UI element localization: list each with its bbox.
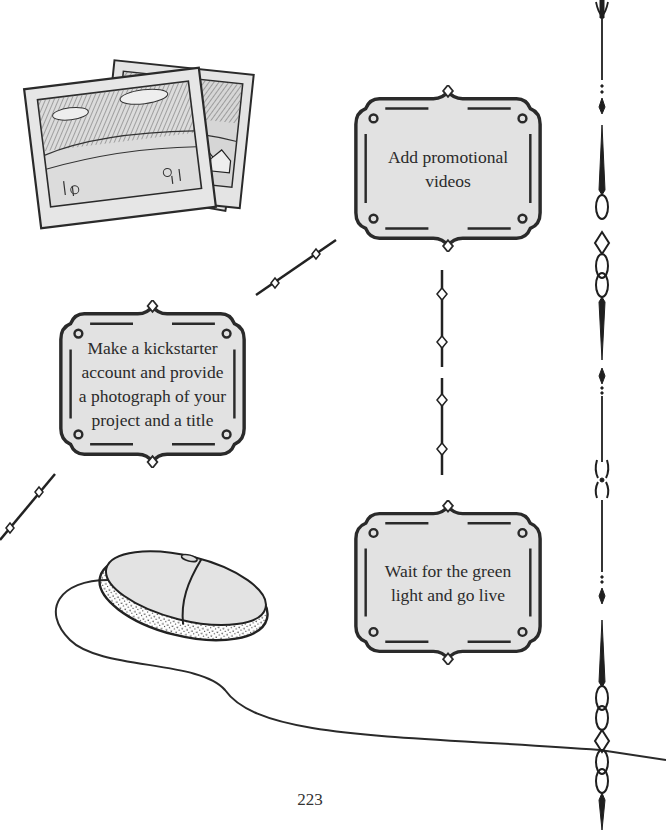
- step-text: Make a kickstarter account and provide a…: [55, 300, 250, 468]
- step-frame-promotional-videos: Add promotional videos: [350, 85, 546, 252]
- step-text-line: Wait for the green: [385, 559, 511, 583]
- connector-left-diagonal: [0, 474, 55, 540]
- step-text-line: Make a kickstarter: [79, 336, 226, 360]
- step-text-line: project and a title: [79, 408, 226, 432]
- step-text-line: Add promotional: [388, 145, 508, 169]
- step-frame-create-account: Make a kickstarter account and provide a…: [55, 300, 250, 468]
- step-text-line: videos: [388, 169, 508, 193]
- step-frame-go-live: Wait for the green light and go live: [350, 500, 546, 665]
- step-text: Add promotional videos: [350, 85, 546, 252]
- ornamental-vertical-border: [595, 0, 609, 830]
- step-text-line: a photograph of your: [79, 384, 226, 408]
- photographs-illustration: [24, 60, 254, 228]
- step-text-line: account and provide: [79, 360, 226, 384]
- connector-step1-to-step2: [256, 240, 336, 295]
- connector-step2-to-step3: [437, 270, 447, 475]
- step-text-line: light and go live: [385, 583, 511, 607]
- page-number: 223: [0, 790, 620, 810]
- step-text: Wait for the green light and go live: [350, 500, 546, 665]
